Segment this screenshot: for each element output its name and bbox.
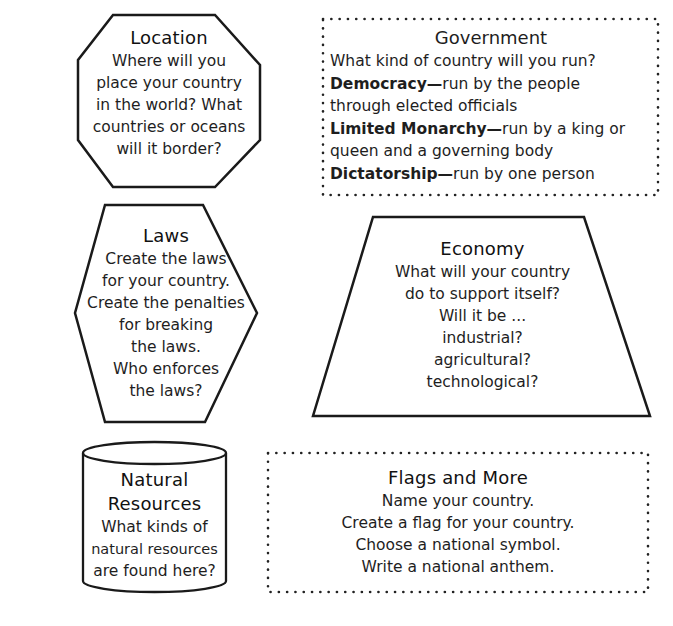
flags-line: Write a national anthem. xyxy=(268,556,648,578)
laws-line: for your country. xyxy=(75,270,257,292)
laws-line: Who enforces xyxy=(75,358,257,380)
government-block: Government What kind of country will you… xyxy=(330,26,652,185)
laws-line: for breaking xyxy=(75,314,257,336)
natural-resources-title-2: Resources xyxy=(83,492,226,516)
location-line: will it border? xyxy=(78,138,260,160)
location-line: in the world? What xyxy=(78,94,260,116)
laws-line: the laws. xyxy=(75,336,257,358)
location-title: Location xyxy=(78,26,260,50)
option-desc: run by the people xyxy=(442,75,580,93)
option-dash: — xyxy=(438,165,454,183)
government-title: Government xyxy=(330,26,652,50)
natural-resources-line: are found here? xyxy=(83,560,226,582)
option-term: Democracy xyxy=(330,75,427,93)
flags-title: Flags and More xyxy=(268,466,648,490)
natural-resources-title-1: Natural xyxy=(83,468,226,492)
economy-line: agricultural? xyxy=(340,349,625,371)
economy-line: What will your country xyxy=(340,261,625,283)
government-intro: What kind of country will you run? xyxy=(330,50,652,73)
laws-block: Laws Create the laws for your country. C… xyxy=(75,224,257,402)
government-option-desc-cont: through elected officials xyxy=(330,95,652,118)
government-option-dictatorship: Dictatorship—run by one person xyxy=(330,163,652,186)
option-desc: run by one person xyxy=(453,165,595,183)
economy-block: Economy What will your country do to sup… xyxy=(340,237,625,393)
option-desc: run by a king or xyxy=(502,120,625,138)
natural-resources-line: What kinds of xyxy=(83,516,226,538)
option-term: Dictatorship xyxy=(330,165,438,183)
laws-title: Laws xyxy=(75,224,257,248)
flags-block: Flags and More Name your country. Create… xyxy=(268,466,648,578)
natural-resources-line: natural resources xyxy=(83,538,226,560)
economy-line: do to support itself? xyxy=(340,283,625,305)
flags-line: Create a flag for your country. xyxy=(268,512,648,534)
natural-resources-block: Natural Resources What kinds of natural … xyxy=(83,468,226,582)
government-option-desc-cont: queen and a governing body xyxy=(330,140,652,163)
economy-line: technological? xyxy=(340,371,625,393)
laws-line: Create the laws xyxy=(75,248,257,270)
flags-line: Name your country. xyxy=(268,490,648,512)
government-option-democracy: Democracy—run by the people xyxy=(330,73,652,96)
option-term: Limited Monarchy xyxy=(330,120,487,138)
government-option-limited-monarchy: Limited Monarchy—run by a king or xyxy=(330,118,652,141)
location-line: Where will you xyxy=(78,50,260,72)
economy-line: Will it be ... xyxy=(340,305,625,327)
location-line: countries or oceans xyxy=(78,116,260,138)
laws-line: the laws? xyxy=(75,380,257,402)
location-block: Location Where will you place your count… xyxy=(78,26,260,160)
flags-line: Choose a national symbol. xyxy=(268,534,648,556)
laws-line: Create the penalties xyxy=(75,292,257,314)
option-dash: — xyxy=(487,120,503,138)
location-line: place your country xyxy=(78,72,260,94)
economy-line: industrial? xyxy=(340,327,625,349)
economy-title: Economy xyxy=(340,237,625,261)
option-dash: — xyxy=(427,75,443,93)
